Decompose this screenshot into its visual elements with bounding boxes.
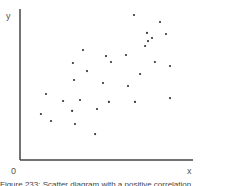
data-point <box>40 113 42 115</box>
origin-label: 0 <box>11 166 16 176</box>
data-point <box>165 33 167 35</box>
data-point <box>139 73 141 75</box>
data-point <box>79 99 81 101</box>
data-point <box>71 110 73 112</box>
data-point <box>94 133 96 135</box>
data-point <box>45 93 47 95</box>
data-point <box>134 101 136 103</box>
scatter-plot <box>0 0 251 186</box>
data-point <box>127 85 129 87</box>
data-point <box>125 54 127 56</box>
data-point <box>74 123 76 125</box>
data-point <box>169 97 171 99</box>
data-point <box>50 120 52 122</box>
data-point <box>159 21 161 23</box>
data-point <box>146 32 148 34</box>
y-axis-label: y <box>6 11 11 21</box>
data-point <box>72 62 74 64</box>
data-point <box>151 37 153 39</box>
data-point <box>73 79 75 81</box>
data-point <box>105 55 107 57</box>
data-point <box>108 101 110 103</box>
data-point <box>96 108 98 110</box>
data-point <box>169 65 171 67</box>
data-point <box>154 61 156 63</box>
data-point <box>147 40 149 42</box>
figure-caption: Figure 233: Scatter diagram with a posit… <box>0 180 191 186</box>
data-point <box>62 100 64 102</box>
data-point <box>102 82 104 84</box>
data-point <box>144 45 146 47</box>
data-points <box>40 14 171 135</box>
data-point <box>133 14 135 16</box>
data-point <box>82 49 84 51</box>
data-point <box>86 70 88 72</box>
x-axis-label: x <box>187 166 192 176</box>
data-point <box>110 61 112 63</box>
